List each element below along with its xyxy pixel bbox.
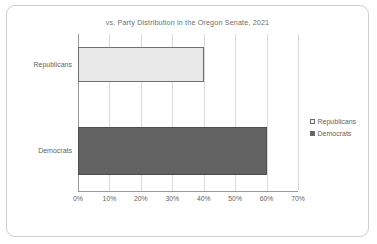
chart-frame: vs. Party Distribution in the Oregon Sen…: [6, 5, 369, 237]
gridline-60: [267, 34, 268, 191]
bar-republicans[interactable]: [78, 47, 204, 82]
x-tick-label: 40%: [197, 195, 211, 202]
x-tick-label: 20%: [134, 195, 148, 202]
category-label-republicans: Republicans: [33, 61, 72, 68]
x-tick-label: 60%: [260, 195, 274, 202]
chart-legend: RepublicansDemocrats: [310, 118, 366, 142]
plot-area: RepublicansDemocrats 0%10%20%30%40%50%60…: [78, 34, 298, 191]
x-tick-label: 0%: [73, 195, 83, 202]
legend-swatch-icon: [310, 131, 315, 136]
legend-label: Democrats: [318, 130, 352, 137]
x-tick-label: 10%: [103, 195, 117, 202]
bar-democrats[interactable]: [78, 127, 267, 175]
x-axis-line: [78, 191, 298, 192]
legend-label: Republicans: [318, 118, 357, 125]
x-tick-label: 50%: [228, 195, 242, 202]
legend-item-democrats[interactable]: Democrats: [310, 130, 366, 137]
x-tick-label: 70%: [291, 195, 305, 202]
gridline-70: [298, 34, 299, 191]
chart-title: vs. Party Distribution in the Oregon Sen…: [7, 18, 368, 27]
legend-item-republicans[interactable]: Republicans: [310, 118, 366, 125]
category-label-democrats: Democrats: [38, 147, 72, 154]
legend-swatch-icon: [310, 119, 315, 124]
x-tick-label: 30%: [165, 195, 179, 202]
